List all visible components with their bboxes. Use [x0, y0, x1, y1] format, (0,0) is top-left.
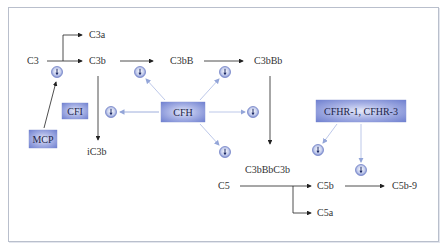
regulator-cfhr: CFHR-1, CFHR-3: [316, 100, 406, 122]
inhibition-icon: [220, 67, 231, 78]
node-c5b9: C5b-9: [392, 181, 417, 191]
node-c5b: C5b: [317, 181, 334, 191]
node-c3bbbc3b: C3bBbC3b: [245, 165, 290, 175]
node-c5: C5: [218, 181, 230, 191]
inhibition-icon: [135, 67, 146, 78]
node-c3b: C3b: [89, 56, 106, 66]
node-c3: C3: [27, 56, 39, 66]
inhibition-icon: [220, 147, 231, 158]
inhibition-icon: [52, 67, 63, 78]
inhibition-icon: [106, 107, 117, 118]
c5-to-c5a-arrow: [293, 186, 311, 213]
node-c5a: C5a: [317, 208, 333, 218]
inhibition-icon: [313, 145, 324, 156]
pathway-arrows: [0, 0, 447, 248]
regulator-mcp: MCP: [29, 130, 57, 148]
node-ic3b: iC3b: [87, 147, 106, 157]
regulator-cfh: CFH: [161, 102, 205, 122]
cfh-downright-arrow: [200, 124, 219, 145]
inhibition-icon: [248, 107, 259, 118]
inhibition-icon: [356, 165, 367, 176]
mcp-arrow: [44, 82, 56, 128]
cfhr-downleft-arrow: [323, 124, 337, 143]
node-c3bb: C3bB: [170, 56, 193, 66]
node-c3a: C3a: [89, 30, 105, 40]
cfh-upleft-arrow: [146, 79, 165, 100]
c3-to-c3a-arrow: [63, 35, 82, 61]
node-c3bbb: C3bBb: [254, 56, 282, 66]
cfh-upright-arrow: [200, 79, 219, 100]
regulator-cfi: CFI: [62, 103, 88, 119]
